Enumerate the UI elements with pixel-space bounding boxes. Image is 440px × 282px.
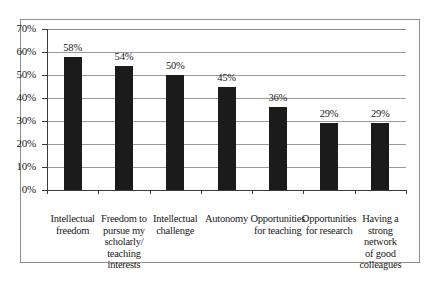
bar-value-label: 29% [307,109,351,120]
bar [269,107,287,190]
chart-figure-frame: 0%10%20%30%40%50%60%70% 58%54%50%45%36%2… [20,19,420,263]
bar-value-label: 36% [256,93,300,104]
x-tick-mark [47,190,48,194]
y-tick-label: 50% [16,69,36,80]
category-label-line: interests [95,259,152,271]
bar [371,123,389,190]
category-label: Intellectualfreedom [44,213,101,236]
category-label-line: Having a [352,213,409,225]
bar [115,66,133,190]
category-label-line: pursue my [95,225,152,237]
y-tick-mark [42,144,47,145]
bar-value-label: 54% [102,52,146,63]
y-tick-mark [42,52,47,53]
category-label-line: for teaching [249,225,306,237]
x-tick-mark [303,190,304,194]
bar-value-label: 58% [51,43,95,54]
bar-chart: 0%10%20%30%40%50%60%70% 58%54%50%45%36%2… [21,20,419,262]
category-label-line: Autonomy [198,213,255,225]
category-label-line: freedom [44,225,101,237]
y-tick-mark [42,167,47,168]
bar [64,57,82,190]
bar [320,123,338,190]
category-label: Opportunitiesfor research [300,213,357,236]
x-tick-mark [201,190,202,194]
x-tick-mark [150,190,151,194]
y-tick-label: 10% [16,161,36,172]
y-tick-mark [42,98,47,99]
category-label-line: network [352,236,409,248]
category-label-line: Freedom to [95,213,152,225]
y-tick-label: 60% [16,46,36,57]
category-label: Intellectualchallenge [147,213,204,236]
y-tick-mark [42,29,47,30]
y-tick-label: 20% [16,138,36,149]
category-label-line: Intellectual [147,213,204,225]
gridline [47,29,406,30]
bar-value-label: 50% [153,61,197,72]
bar-value-label: 29% [358,109,402,120]
y-tick-label: 70% [16,23,36,34]
bar [166,75,184,190]
category-label-line: scholarly/ [95,236,152,248]
bar-value-label: 45% [205,73,249,84]
y-tick-label: 30% [16,115,36,126]
y-tick-mark [42,75,47,76]
bar [218,87,236,191]
category-label-line: colleagues [352,259,409,271]
category-label-line: Opportunities [300,213,357,225]
x-tick-mark [355,190,356,194]
gridline [47,52,406,53]
category-label-line: Opportunities [249,213,306,225]
category-label: Having astrongnetworkof goodcolleagues [352,213,409,271]
y-tick-label: 40% [16,92,36,103]
category-label: Opportunitiesfor teaching [249,213,306,236]
category-label-line: challenge [147,225,204,237]
category-label-line: for research [300,225,357,237]
x-tick-mark [406,190,407,194]
category-label-line: teaching [95,248,152,260]
x-axis-line [47,190,406,191]
y-tick-mark [42,121,47,122]
category-label: Freedom topursue myscholarly/teachingint… [95,213,152,271]
y-axis-line [47,29,48,190]
category-label-line: Intellectual [44,213,101,225]
x-tick-mark [98,190,99,194]
x-tick-mark [252,190,253,194]
category-label-line: strong [352,225,409,237]
y-tick-label: 0% [22,184,36,195]
category-label: Autonomy [198,213,255,225]
category-label-line: of good [352,248,409,260]
